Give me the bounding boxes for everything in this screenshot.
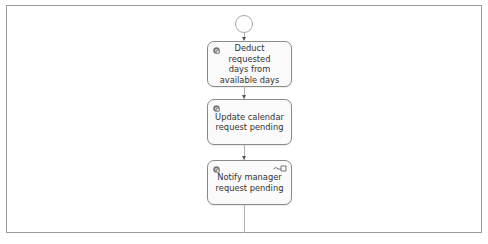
task-label-line: available days <box>214 75 285 86</box>
task-label-line: Notify manager <box>216 172 284 183</box>
task-label-line: Update calendar <box>215 112 284 123</box>
task-label-line: request pending <box>215 122 284 133</box>
task-label-line: days from <box>214 64 285 75</box>
connector-task-2-continues <box>244 205 245 233</box>
task-label: Update calendar request pending <box>209 112 290 133</box>
start-event[interactable] <box>235 15 253 33</box>
gear-icon <box>212 46 221 55</box>
task-deduct-days[interactable]: Deduct requested days from available day… <box>207 41 292 87</box>
task-notify-manager[interactable]: Notify manager request pending <box>207 160 292 205</box>
task-update-calendar[interactable]: Update calendar request pending <box>207 99 292 145</box>
task-label: Notify manager request pending <box>210 172 290 193</box>
send-message-icon <box>273 164 287 173</box>
task-label-line: request pending <box>216 183 284 194</box>
task-label-line: Deduct requested <box>214 43 285 64</box>
gear-icon <box>212 104 221 113</box>
gear-icon <box>212 165 221 174</box>
